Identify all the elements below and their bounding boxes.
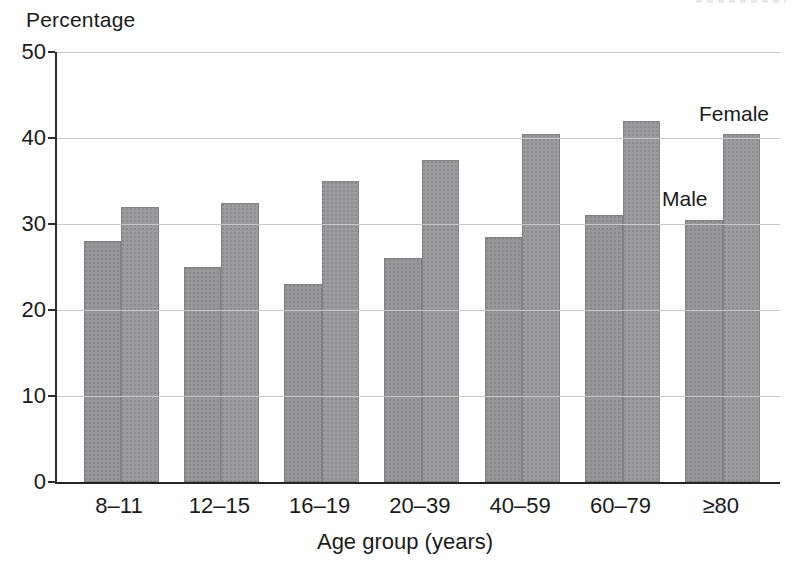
chart: Percentage Female Male Age group (years)… [0, 0, 792, 573]
y-tick [48, 51, 55, 53]
scan-artifact [696, 0, 786, 3]
y-tick-label: 40 [2, 126, 46, 150]
x-tick-label: ≥80 [666, 494, 776, 518]
grid-line [57, 310, 780, 311]
x-tick-label: 16–19 [265, 494, 375, 518]
bar-female [522, 134, 560, 482]
y-tick [48, 395, 55, 397]
bar-female [322, 181, 360, 482]
bar-male [184, 267, 222, 482]
y-tick [48, 309, 55, 311]
y-tick-label: 20 [2, 298, 46, 322]
series-label-male: Male [662, 187, 708, 211]
y-tick [48, 137, 55, 139]
y-tick-label: 50 [2, 40, 46, 64]
x-axis-title: Age group (years) [55, 529, 755, 555]
x-tick-label: 12–15 [164, 494, 274, 518]
bar-male [384, 258, 422, 482]
y-tick-label: 30 [2, 212, 46, 236]
grid-line [57, 138, 780, 139]
grid-line [57, 396, 780, 397]
bar-female [422, 160, 460, 483]
series-label-female: Female [699, 102, 769, 126]
y-tick [48, 481, 55, 483]
y-tick-label: 0 [2, 470, 46, 494]
y-tick [48, 223, 55, 225]
grid-line [57, 52, 780, 53]
bar-male [585, 215, 623, 482]
y-axis-title: Percentage [26, 8, 135, 32]
bar-male [485, 237, 523, 482]
x-tick-label: 20–39 [365, 494, 475, 518]
bar-male [84, 241, 122, 482]
plot-area [55, 52, 780, 484]
bar-female [121, 207, 159, 482]
bar-female [221, 203, 259, 483]
x-tick-label: 8–11 [64, 494, 174, 518]
x-tick-label: 60–79 [566, 494, 676, 518]
y-tick-label: 10 [2, 384, 46, 408]
bar-male [284, 284, 322, 482]
bar-female [623, 121, 661, 482]
bar-female [723, 134, 761, 482]
grid-line [57, 224, 780, 225]
bar-male [685, 220, 723, 482]
x-tick-label: 40–59 [465, 494, 575, 518]
